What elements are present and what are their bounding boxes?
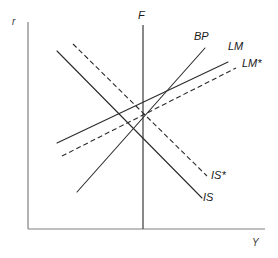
curve-is-star	[73, 44, 207, 176]
chart-canvas	[0, 0, 278, 258]
y-axis-label: r	[12, 17, 15, 27]
curve-label-is: IS	[203, 192, 213, 203]
curve-lm-star	[62, 68, 236, 156]
f-line-label: F	[138, 10, 145, 21]
curve-label-is-star: IS*	[211, 170, 226, 181]
curve-bp	[77, 48, 205, 192]
curve-label-lm-star: LM*	[242, 58, 262, 69]
curve-label-bp: BP	[194, 31, 209, 42]
curve-is	[57, 51, 202, 198]
x-axis-label: Y	[252, 238, 259, 248]
curve-label-lm: LM	[228, 41, 243, 52]
is-lm-bp-diagram: r Y F BP LM LM* IS* IS	[0, 0, 278, 258]
